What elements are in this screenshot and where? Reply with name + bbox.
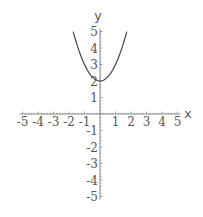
- x-tick-label: -5: [17, 115, 29, 129]
- x-tick-label: 2: [127, 115, 135, 129]
- y-axis-label: y: [94, 8, 102, 23]
- x-axis-label: x: [184, 106, 192, 121]
- x-tick-label: 1: [112, 115, 120, 129]
- x-tick-labels: -5-4-3-2-112345: [17, 115, 182, 129]
- y-tick-label: -4: [86, 174, 98, 188]
- y-tick-label: -5: [86, 190, 98, 204]
- y-tick-label: -3: [86, 157, 98, 171]
- y-tick-label: -2: [86, 141, 98, 155]
- parabola-chart: -5-4-3-2-112345 -5-4-3-2-112345 x y: [0, 0, 203, 217]
- y-tick-label: -1: [86, 124, 98, 138]
- y-tick-label: 1: [90, 91, 98, 105]
- x-tick-label: 5: [174, 115, 182, 129]
- y-tick-label: 4: [90, 42, 98, 56]
- y-tick-label: 5: [90, 25, 98, 39]
- x-tick-label: 4: [158, 115, 166, 129]
- x-tick-label: -3: [48, 115, 60, 129]
- y-tick-label: 3: [90, 58, 98, 72]
- x-tick-label: -2: [63, 115, 75, 129]
- x-tick-label: -4: [32, 115, 44, 129]
- x-tick-label: 3: [143, 115, 151, 129]
